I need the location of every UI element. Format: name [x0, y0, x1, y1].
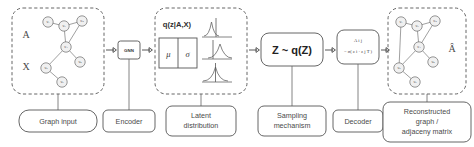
- encoder-label: Encoder: [116, 117, 143, 126]
- decoder-box: [337, 30, 379, 64]
- output-graph-nodes: v₁ v₂ v₃ v₄ v₅ v₆ v₇: [394, 16, 440, 87]
- graph-input-label: Graph input: [39, 117, 77, 126]
- output-graph: v₁ v₂ v₃ v₄ v₅ v₆ v₇: [394, 16, 440, 87]
- latent-label-line1: Latent: [191, 111, 211, 120]
- mu-sigma-box: μ σ: [159, 38, 197, 68]
- latent-label-line2: distribution: [184, 121, 219, 130]
- distribution-plot: [202, 18, 232, 37]
- input-graph-nodes: v₁ v₂ v₃ v₄ v₅ v₆ v₇: [41, 16, 87, 87]
- graph-node-label: v₅: [431, 60, 435, 64]
- arrow-input-to-encoder: [106, 48, 116, 53]
- stage-decoder: A i j = σ( z i · z j T ) Decoder: [333, 30, 383, 132]
- reconstructed-label-line2: graph /: [416, 117, 438, 126]
- pipeline-diagram: A X v₁ v₂ v₃ v₄ v₅: [0, 0, 474, 147]
- graph-node-label: v₄: [417, 45, 421, 49]
- matrix-symbol-x: X: [22, 61, 30, 72]
- stage-graph-input: A X v₁ v₂ v₃ v₄ v₅: [12, 8, 104, 132]
- sampling-label-line2: mechanism: [274, 121, 311, 130]
- stage-encoder: GNN Encoder: [103, 41, 155, 132]
- gnn-label: GNN: [124, 48, 134, 53]
- matrix-symbol-a: A: [22, 29, 30, 40]
- distribution-plot: [202, 40, 232, 59]
- decoder-label: Decoder: [344, 117, 372, 126]
- input-graph: v₁ v₂ v₃ v₄ v₅ v₆ v₇: [41, 16, 87, 87]
- stage-sampling: Z ~ q(Z) Sampling mechanism: [258, 33, 326, 136]
- graph-node-label: v₆: [44, 66, 48, 70]
- sampling-label-line1: Sampling: [277, 111, 307, 120]
- graph-node-label: v₃: [433, 19, 437, 23]
- sampling-formula: Z ~ q(Z): [272, 44, 312, 56]
- arrow-encoder-to-latent: [142, 48, 152, 53]
- arrow-sampling-to-decoder: [325, 48, 335, 53]
- distribution-plot: [202, 63, 232, 82]
- graph-node-label: v₅: [78, 60, 82, 64]
- decoder-formula-line1: A i j: [354, 38, 362, 43]
- matrix-symbol-a-hat: Â: [448, 43, 456, 54]
- stage-latent-distribution: q(z|A,X) μ σ: [155, 8, 247, 136]
- graph-node-label: v₄: [64, 45, 68, 49]
- decoder-formula-line2: = σ( z i · z j T ): [344, 49, 373, 54]
- reconstructed-label-line3: adjaceny matrix: [402, 127, 453, 136]
- arrow-latent-to-sampling: [249, 48, 259, 53]
- posterior-formula: q(z|A,X): [163, 20, 192, 29]
- graph-node-label: v₆: [397, 66, 401, 70]
- stage-reconstructed-graph: v₁ v₂ v₃ v₄ v₅ v₆ v₇ Â Reconstructed gra…: [383, 8, 471, 142]
- distribution-plots: [202, 18, 232, 82]
- reconstructed-label-line1: Reconstructed: [404, 107, 450, 116]
- graph-node-label: v₃: [80, 19, 84, 23]
- mu-symbol: μ: [165, 49, 170, 59]
